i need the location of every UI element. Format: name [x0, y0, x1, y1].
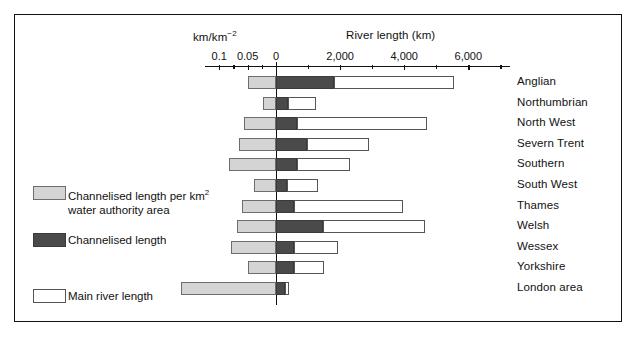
bar-segment-density	[239, 138, 276, 151]
bar-segment-channelised	[276, 179, 287, 192]
tick-label-river-length: 2,000	[310, 50, 370, 62]
legend-item: Channelised length per km2water authorit…	[0, 186, 230, 218]
axis-line	[205, 66, 510, 67]
category-label: Yorkshire	[517, 260, 565, 272]
bar-segment-main-river	[323, 220, 425, 233]
legend-item: Main river length	[0, 289, 230, 321]
bar-segment-density	[231, 241, 276, 254]
category-label: Southern	[517, 157, 564, 169]
bar-segment-density	[248, 76, 276, 89]
axis-tick	[262, 65, 263, 69]
axis-tick	[233, 65, 234, 69]
bar-segment-density	[244, 117, 276, 130]
bar-segment-channelised	[276, 200, 294, 213]
left-axis-title: km/km−2	[193, 29, 237, 43]
axis-tick	[219, 65, 220, 70]
legend-swatch-white	[33, 289, 66, 303]
category-label: Northumbrian	[517, 96, 588, 108]
category-label: South West	[517, 178, 577, 190]
bar-segment-density	[263, 97, 276, 110]
category-label: Severn Trent	[517, 137, 584, 149]
left-axis-title-text: km/km−2	[193, 31, 237, 43]
tick-label-density: 0	[246, 50, 306, 62]
bar-segment-channelised	[276, 138, 307, 151]
bar-segment-channelised	[276, 97, 288, 110]
bar-segment-main-river	[307, 138, 369, 151]
bar-segment-channelised	[276, 261, 294, 274]
bar-segment-channelised	[276, 282, 285, 295]
bar-segment-density	[237, 220, 276, 233]
category-label: Thames	[517, 199, 559, 211]
legend-superscript: 2	[205, 188, 209, 197]
bar-segment-main-river	[334, 76, 453, 89]
category-label: London area	[517, 281, 583, 293]
bar-segment-channelised	[276, 220, 323, 233]
category-label: North West	[517, 116, 575, 128]
legend-swatch-dark	[33, 233, 66, 247]
bar-segment-density	[254, 179, 276, 192]
bar-segment-channelised	[276, 76, 334, 89]
axis-tick	[248, 65, 249, 70]
bar-segment-main-river	[297, 117, 427, 130]
chart-plot-area: km/km−2 River length (km) 0.10.0502,0004…	[0, 0, 637, 337]
bar-segment-main-river	[288, 97, 317, 110]
legend-item: Channelised length	[0, 233, 230, 265]
axis-tick	[468, 65, 469, 70]
bar-segment-channelised	[276, 117, 297, 130]
bar-segment-main-river	[287, 179, 319, 192]
bar-segment-main-river	[285, 282, 289, 295]
category-label: Welsh	[517, 219, 549, 231]
bar-segment-main-river	[297, 158, 350, 171]
legend-swatch-light	[33, 186, 66, 200]
bar-segment-channelised	[276, 158, 297, 171]
tick-label-river-length: 6,000	[438, 50, 498, 62]
bar-segment-density	[229, 158, 276, 171]
right-axis-title-text: River length (km)	[346, 29, 435, 41]
bar-segment-density	[242, 200, 276, 213]
axis-tick	[404, 65, 405, 70]
bar-segment-main-river	[294, 200, 403, 213]
axis-tick	[276, 65, 277, 70]
legend-label: Channelised length	[68, 233, 166, 247]
bar-segment-channelised	[276, 241, 294, 254]
bar-segment-main-river	[294, 261, 323, 274]
category-label: Wessex	[517, 240, 558, 252]
bar-segment-density	[248, 261, 276, 274]
axis-tick	[500, 65, 501, 69]
legend-label: Channelised length per km2water authorit…	[68, 186, 209, 217]
axis-title-superscript: −2	[227, 29, 236, 38]
category-label: Anglian	[517, 75, 556, 87]
bar-segment-main-river	[294, 241, 338, 254]
legend-label: Main river length	[68, 289, 153, 303]
axis-tick	[372, 65, 373, 69]
axis-tick	[340, 65, 341, 70]
axis-tick	[308, 65, 309, 69]
axis-tick	[436, 65, 437, 69]
tick-label-river-length: 4,000	[374, 50, 434, 62]
right-axis-title: River length (km)	[346, 29, 435, 41]
